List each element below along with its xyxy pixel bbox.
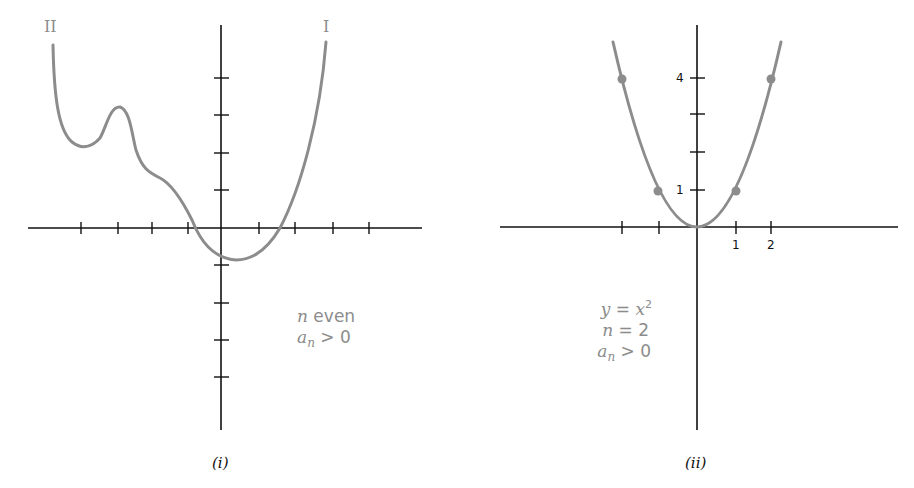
equation-line: y = x2 [562, 294, 662, 320]
x-tick-label-1: 1 [732, 238, 740, 252]
annotation-line-2: an > 0 [297, 327, 355, 354]
annotation-line-1: n even [297, 306, 355, 327]
graph-ii [500, 25, 898, 430]
point-1-1 [732, 187, 741, 196]
point-2-4 [767, 75, 776, 84]
annotation-i: n even an > 0 [297, 306, 355, 354]
caption-i: (i) [212, 454, 229, 472]
graph-i [28, 25, 422, 430]
point-neg1-1 [654, 187, 663, 196]
point-neg2-4 [618, 75, 627, 84]
caption-ii: (ii) [685, 454, 706, 472]
figure-canvas [0, 0, 914, 488]
y-tick-label-4: 4 [676, 71, 684, 85]
degree-line: n = 2 [562, 320, 662, 341]
coefficient-line: an > 0 [562, 341, 662, 368]
curve-label-I: I [323, 17, 329, 36]
y-tick-label-1: 1 [676, 183, 684, 197]
curve-label-II: II [44, 17, 57, 36]
annotation-ii: y = x2 n = 2 an > 0 [562, 294, 662, 368]
x-tick-label-2: 2 [767, 238, 775, 252]
